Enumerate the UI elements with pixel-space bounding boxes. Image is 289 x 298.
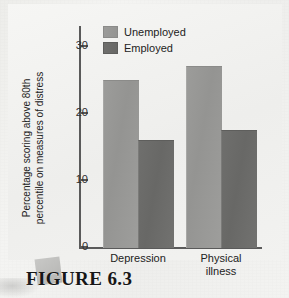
legend-label-unemployed: Unemployed [124,27,186,38]
bar-unemployed-physical-illness [186,27,221,248]
legend-swatch-icon-employed [103,42,118,54]
bar-fill [221,130,257,248]
bar-unemployed-depression [103,27,138,248]
bars-layer [0,26,289,248]
scan-smudge [0,278,40,298]
figure-caption: FIGURE 6.3 [26,268,132,290]
bar-employed-physical-illness [221,27,256,248]
bar-employed-depression [138,27,173,248]
bar-fill [138,140,174,248]
figure-container: 0102030 Percentage scoring above 80th pe… [0,0,289,298]
legend-item-employed: Employed [103,41,186,55]
legend-label-employed: Employed [124,43,173,54]
legend-swatch-icon-unemployed [103,26,118,38]
bar-chart: 0102030 Percentage scoring above 80th pe… [0,0,289,298]
legend-item-unemployed: Unemployed [103,25,186,39]
chart-legend: Unemployed Employed [103,25,186,57]
bar-fill [103,80,139,248]
bar-fill [186,66,222,248]
